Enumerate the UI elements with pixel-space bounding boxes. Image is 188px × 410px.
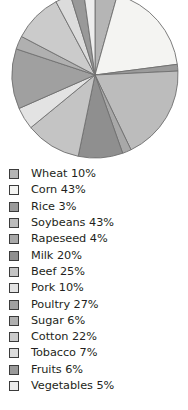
pie-chart-area <box>0 0 188 162</box>
legend-item-label: Tobacco 7% <box>31 347 97 359</box>
legend-item-label: Cotton 22% <box>31 331 97 343</box>
legend-item[interactable]: Fruits 6% <box>0 362 188 378</box>
legend-item[interactable]: Cotton 22% <box>0 329 188 345</box>
legend-item-label: Poultry 27% <box>31 299 99 311</box>
legend-item[interactable]: Tobacco 7% <box>0 345 188 361</box>
legend-item-label: Corn 43% <box>31 184 86 196</box>
legend-item[interactable]: Vegetables 5% <box>0 378 188 394</box>
legend-swatch-icon <box>9 169 19 179</box>
legend-item[interactable]: Milk 20% <box>0 247 188 263</box>
pie-chart-svg <box>0 0 188 162</box>
legend-item-label: Milk 20% <box>31 250 82 262</box>
legend-item-label: Rice 3% <box>31 201 76 213</box>
legend-item-label: Pork 10% <box>31 282 84 294</box>
legend-swatch-icon <box>9 365 19 375</box>
legend-item-label: Soybeans 43% <box>31 217 114 229</box>
legend-item-label: Sugar 6% <box>31 315 85 327</box>
legend-swatch-icon <box>9 202 19 212</box>
legend-item-label: Beef 25% <box>31 266 85 278</box>
legend-item-label: Rapeseed 4% <box>31 233 108 245</box>
pie-slice-group <box>12 0 178 158</box>
pie-chart-figure: Wheat 10%Corn 43%Rice 3%Soybeans 43%Rape… <box>0 0 188 410</box>
legend-swatch-icon <box>9 332 19 342</box>
legend-item-label: Wheat 10% <box>31 168 96 180</box>
legend-swatch-icon <box>9 348 19 358</box>
legend-swatch-icon <box>9 267 19 277</box>
legend-item[interactable]: Wheat 10% <box>0 166 188 182</box>
legend-item[interactable]: Soybeans 43% <box>0 215 188 231</box>
legend-swatch-icon <box>9 251 19 261</box>
legend-item-label: Fruits 6% <box>31 364 83 376</box>
legend-swatch-icon <box>9 316 19 326</box>
legend-item[interactable]: Rice 3% <box>0 199 188 215</box>
legend-item[interactable]: Poultry 27% <box>0 296 188 312</box>
legend-swatch-icon <box>9 300 19 310</box>
legend-swatch-icon <box>9 381 19 391</box>
legend-swatch-icon <box>9 283 19 293</box>
legend-swatch-icon <box>9 218 19 228</box>
legend-swatch-icon <box>9 185 19 195</box>
legend-swatch-icon <box>9 234 19 244</box>
legend-item[interactable]: Corn 43% <box>0 182 188 198</box>
legend-item[interactable]: Sugar 6% <box>0 313 188 329</box>
legend-item[interactable]: Beef 25% <box>0 264 188 280</box>
chart-legend: Wheat 10%Corn 43%Rice 3%Soybeans 43%Rape… <box>0 166 188 394</box>
legend-item[interactable]: Rapeseed 4% <box>0 231 188 247</box>
legend-item-label: Vegetables 5% <box>31 380 114 392</box>
legend-item[interactable]: Pork 10% <box>0 280 188 296</box>
